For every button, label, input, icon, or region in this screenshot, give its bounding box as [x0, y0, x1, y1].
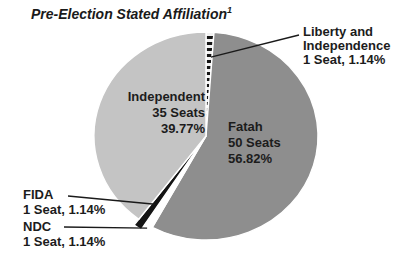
label-liberty-name1: Liberty and: [303, 25, 390, 39]
label-independent-pct: 39.77%: [95, 121, 205, 137]
label-fatah: Fatah 50 Seats 56.82%: [228, 119, 281, 167]
label-fatah-name: Fatah: [228, 119, 281, 135]
label-fida-name: FIDA: [23, 187, 105, 202]
label-fida-seats: 1 Seat, 1.14%: [23, 202, 105, 217]
label-ndc: NDC 1 Seat, 1.14%: [23, 219, 105, 249]
label-ndc-seats: 1 Seat, 1.14%: [23, 234, 105, 249]
label-liberty-and-independence: Liberty and Independence 1 Seat, 1.14%: [303, 25, 390, 67]
label-liberty-name2: Independence: [303, 39, 390, 53]
label-independent: Independent 35 Seats 39.77%: [95, 89, 205, 137]
label-independent-seats: 35 Seats: [95, 105, 205, 121]
chart-canvas: Pre-Election Stated Affiliation1 Indepen…: [0, 0, 412, 261]
label-fatah-seats: 50 Seats: [228, 135, 281, 151]
label-fida: FIDA 1 Seat, 1.14%: [23, 187, 105, 217]
label-liberty-seats: 1 Seat, 1.14%: [303, 53, 390, 67]
label-fatah-pct: 56.82%: [228, 151, 281, 167]
label-ndc-name: NDC: [23, 219, 105, 234]
label-independent-name: Independent: [95, 89, 205, 105]
